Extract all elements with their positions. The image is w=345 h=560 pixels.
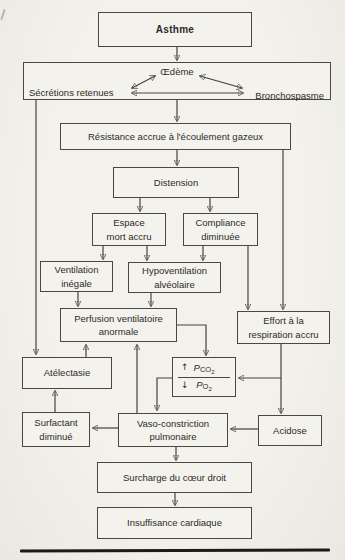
node-distension: Distension [113, 167, 239, 198]
node-ventilation-inegale: Ventilation inégale [40, 261, 113, 292]
node-triad-group: Œdème Sécrétions retenues Bronchospasme [23, 62, 331, 100]
node-perfusion: Perfusion ventilatoire anormale [60, 308, 177, 342]
pco2-formula: PCO2 [194, 361, 215, 376]
bottom-rule [20, 548, 330, 552]
po2-row: ↓ PO2 [178, 378, 230, 395]
node-surfactant: Surfactant diminué [22, 412, 90, 447]
scan-artifact [0, 9, 5, 20]
pco2-row: ↑ PCO2 [178, 360, 230, 378]
edge-perfusion-gaz [177, 325, 206, 355]
node-hypoventilation: Hypoventilation alvéolaire [128, 262, 221, 293]
node-acidose: Acidose [258, 415, 322, 446]
node-espace-mort: Espace mort accru [92, 213, 166, 246]
node-insuffisance: Insuffisance cardiaque [97, 507, 252, 539]
node-oedeme: Œdème [160, 65, 193, 78]
down-arrow-icon: ↓ [181, 379, 189, 392]
node-asthme: Asthme [98, 12, 252, 47]
node-secretions-retenues: Sécrétions retenues [29, 86, 114, 99]
node-vasoconstriction: Vaso-constriction pulmonaire [118, 413, 228, 447]
po2-formula: PO2 [196, 378, 212, 393]
node-resistance: Résistance accrue à l'écoulement gazeux [60, 123, 291, 150]
asthma-flowchart: Asthme Œdème Sécrétions retenues Broncho… [0, 0, 345, 560]
up-arrow-icon: ↑ [181, 362, 189, 375]
node-atelectasie: Atélectasie [22, 357, 112, 389]
node-compliance: Compliance diminuée [183, 213, 258, 246]
node-bronchospasme: Bronchospasme [255, 89, 324, 102]
node-surcharge: Surcharge du cœur droit [97, 462, 252, 493]
node-effort-respiration: Effort à la respiration accru [237, 311, 330, 344]
node-gaz-sanguins: ↑ PCO2 ↓ PO2 [172, 357, 236, 397]
edge-gaz-vaso [157, 378, 172, 410]
